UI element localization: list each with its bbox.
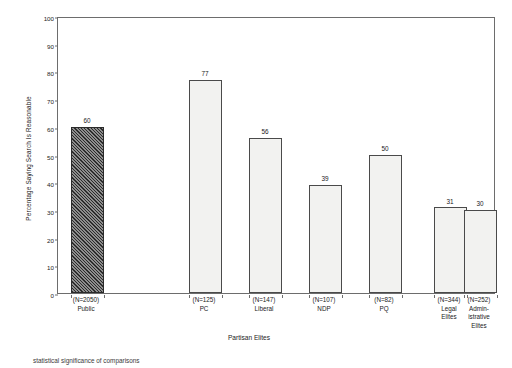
bar-ndp[interactable] [309, 185, 342, 293]
x-label-name: PC [174, 305, 234, 314]
bar-value-label: 56 [261, 128, 268, 135]
footer-caption: statistical significance of comparisons [33, 357, 140, 364]
x-label-name: Elites [449, 322, 509, 331]
x-label-n: (N=252) [449, 296, 509, 305]
y-axis-title: Percentage Saying Search Is Reasonable [25, 59, 32, 259]
x-label-n: (N=2050) [56, 296, 116, 305]
x-axis-title: Partisan Elites [228, 334, 270, 341]
bar-slot: 50 [369, 16, 402, 293]
plot-area: 0102030405060708090100 60775639503130 [57, 17, 495, 294]
bar-slot: 39 [309, 16, 342, 293]
x-label-name: NDP [294, 305, 354, 314]
bar-slot: 77 [189, 16, 222, 293]
x-label-name: Public [56, 305, 116, 314]
bar-value-label: 77 [201, 70, 208, 77]
x-label-n: (N=107) [294, 296, 354, 305]
x-label-pq: (N=82)PQ [354, 296, 414, 313]
bar-pc[interactable] [189, 80, 222, 293]
bar-value-label: 60 [83, 117, 90, 124]
x-label-n: (N=125) [174, 296, 234, 305]
bar-value-label: 39 [321, 175, 328, 182]
bar-value-label: 30 [476, 200, 483, 207]
x-label-name: istrative [449, 313, 509, 322]
x-axis-title-wrap: Partisan Elites [57, 334, 495, 341]
bar-legal-elites[interactable] [434, 207, 467, 293]
x-label-liberal: (N=147)Liberal [234, 296, 294, 313]
x-label-public: (N=2050)Public [56, 296, 116, 313]
x-label-pc: (N=125)PC [174, 296, 234, 313]
bar-chart-figure: Percentage Saying Search Is Reasonable 0… [0, 0, 512, 368]
x-label-n: (N=147) [234, 296, 294, 305]
x-label-ndp: (N=107)NDP [294, 296, 354, 313]
bar-liberal[interactable] [249, 138, 282, 293]
x-label-n: (N=82) [354, 296, 414, 305]
x-label-name: PQ [354, 305, 414, 314]
x-label-name: Liberal [234, 305, 294, 314]
bar-public[interactable] [71, 127, 104, 293]
bar-value-label: 31 [446, 198, 453, 205]
x-label-administrative-elites: (N=252)Admin-istrativeElites [449, 296, 509, 330]
bar-series: 60775639503130 [58, 18, 494, 293]
bar-slot: 30 [464, 16, 497, 293]
bar-pq[interactable] [369, 155, 402, 294]
bar-value-label: 50 [381, 145, 388, 152]
x-axis-category-labels: (N=2050)Public(N=125)PC(N=147)Liberal(N=… [57, 296, 495, 352]
bar-slot: 56 [249, 16, 282, 293]
bar-slot: 31 [434, 16, 467, 293]
bar-administrative-elites[interactable] [464, 210, 497, 293]
x-label-name: Admin- [449, 305, 509, 314]
bar-slot: 60 [71, 16, 104, 293]
